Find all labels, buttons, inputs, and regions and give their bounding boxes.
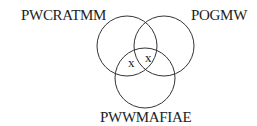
label-pogmw: POGMW	[191, 8, 247, 23]
label-pwcratmm: PWCRATMM	[21, 8, 106, 23]
circle-pogmw	[134, 16, 194, 76]
label-pwwmafiae: PWWMAFIAE	[100, 110, 191, 125]
circle-pwcratmm	[97, 16, 157, 76]
mark-x-center: x	[145, 51, 152, 64]
venn-diagram: PWCRATMM POGMW PWWMAFIAE x x	[0, 0, 257, 126]
mark-x-left-bottom: x	[128, 56, 135, 69]
